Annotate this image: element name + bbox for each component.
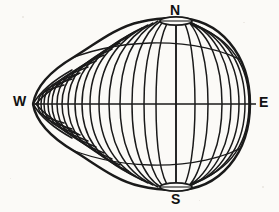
- paper-speck: [10, 178, 11, 179]
- paper-speck: [199, 200, 200, 201]
- figure-canvas: N S W E: [0, 0, 279, 212]
- outline-lower: [33, 104, 250, 190]
- south-polar-opening: [160, 183, 192, 191]
- latitude-north-tropic: [60, 43, 248, 64]
- paper-speck: [243, 22, 245, 23]
- label-north: N: [170, 3, 180, 17]
- globe-diagram: [0, 0, 279, 212]
- paper-speck: [22, 16, 24, 18]
- label-east: E: [259, 95, 268, 109]
- north-polar-opening: [160, 17, 192, 25]
- label-west: W: [13, 94, 26, 108]
- label-south: S: [171, 192, 180, 206]
- paper-speck: [262, 186, 264, 188]
